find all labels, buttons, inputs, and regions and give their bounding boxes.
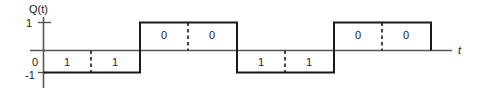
x-axis-label: t bbox=[458, 44, 462, 56]
bit-label-7: 0 bbox=[355, 29, 361, 41]
bit-label-2: 1 bbox=[112, 56, 118, 68]
bit-label-4: 0 bbox=[209, 29, 215, 41]
waveform-trace bbox=[44, 23, 432, 73]
bit-label-8: 0 bbox=[403, 29, 409, 41]
y-tick-label-plus-one: 1 bbox=[26, 17, 32, 29]
bit-label-6: 1 bbox=[306, 56, 312, 68]
y-tick-label-zero: 0 bbox=[32, 56, 38, 68]
bit-label-3: 0 bbox=[161, 29, 167, 41]
y-axis-label: Q(t) bbox=[29, 3, 48, 15]
waveform-svg: Q(t) t 1 0 -1 1 1 0 0 1 1 0 0 bbox=[0, 0, 482, 97]
y-tick-label-minus-one: -1 bbox=[25, 69, 35, 81]
bit-label-5: 1 bbox=[258, 56, 264, 68]
bit-label-1: 1 bbox=[64, 56, 70, 68]
waveform-figure: Q(t) t 1 0 -1 1 1 0 0 1 1 0 0 bbox=[0, 0, 482, 97]
